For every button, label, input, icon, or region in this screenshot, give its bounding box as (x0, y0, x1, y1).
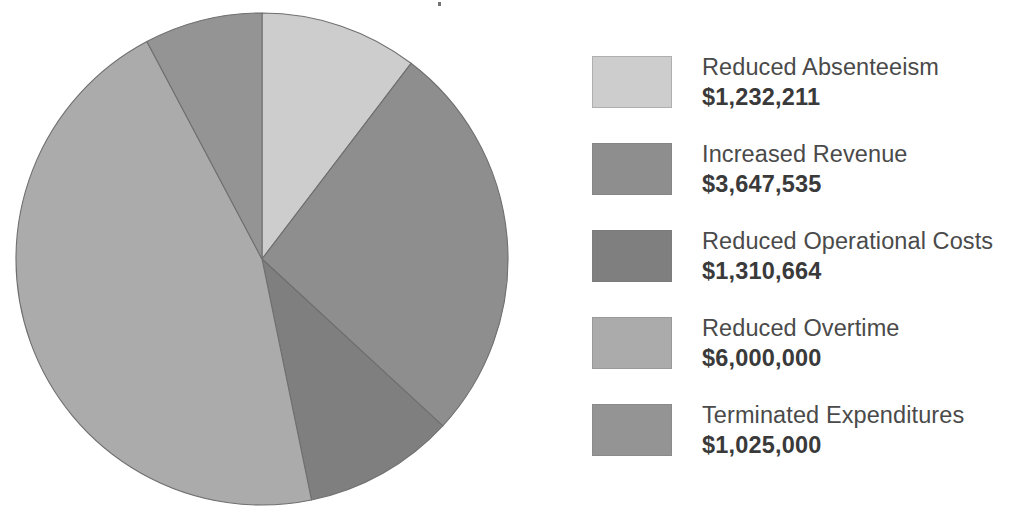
legend-value-terminated-expenditures: $1,025,000 (702, 432, 822, 458)
legend-item-terminated-expenditures[interactable]: Terminated Expenditures $1,025,000 (592, 400, 1022, 460)
legend-item-reduced-overtime[interactable]: Reduced Overtime $6,000,000 (592, 313, 1022, 373)
legend-value-increased-revenue: $3,647,535 (702, 171, 822, 197)
legend-swatch-increased-revenue (592, 143, 672, 195)
legend-text-reduced-overtime: Reduced Overtime $6,000,000 (702, 313, 1022, 373)
legend-item-increased-revenue[interactable]: Increased Revenue $3,647,535 (592, 139, 1022, 199)
legend-label-reduced-operational-costs: Reduced Operational Costs (702, 228, 993, 254)
legend-swatch-reduced-operational-costs (592, 230, 672, 282)
legend-label-terminated-expenditures: Terminated Expenditures (702, 402, 964, 428)
legend-value-reduced-operational-costs: $1,310,664 (702, 258, 822, 284)
legend-value-reduced-overtime: $6,000,000 (702, 345, 822, 371)
legend-item-reduced-operational-costs[interactable]: Reduced Operational Costs $1,310,664 (592, 226, 1022, 286)
pie-slice-group (16, 13, 508, 505)
legend-swatch-terminated-expenditures (592, 404, 672, 456)
legend-text-terminated-expenditures: Terminated Expenditures $1,025,000 (702, 400, 1022, 460)
legend-swatch-reduced-absenteeism (592, 56, 672, 108)
legend-text-reduced-operational-costs: Reduced Operational Costs $1,310,664 (702, 226, 1022, 286)
legend-item-reduced-absenteeism[interactable]: Reduced Absenteeism $1,232,211 (592, 52, 1022, 112)
pie-chart-figure: Reduced Absenteeism $1,232,211 Increased… (0, 0, 1025, 511)
pie-chart-plot-area (0, 0, 560, 511)
legend-value-reduced-absenteeism: $1,232,211 (702, 84, 820, 110)
legend-swatch-reduced-overtime (592, 317, 672, 369)
legend-label-increased-revenue: Increased Revenue (702, 141, 908, 167)
chart-legend: Reduced Absenteeism $1,232,211 Increased… (592, 52, 1022, 460)
legend-text-increased-revenue: Increased Revenue $3,647,535 (702, 139, 1022, 199)
legend-label-reduced-overtime: Reduced Overtime (702, 315, 900, 341)
legend-label-reduced-absenteeism: Reduced Absenteeism (702, 54, 939, 80)
scan-artifact-speck (438, 2, 441, 6)
legend-text-reduced-absenteeism: Reduced Absenteeism $1,232,211 (702, 52, 1022, 112)
pie-chart-svg (0, 0, 560, 511)
